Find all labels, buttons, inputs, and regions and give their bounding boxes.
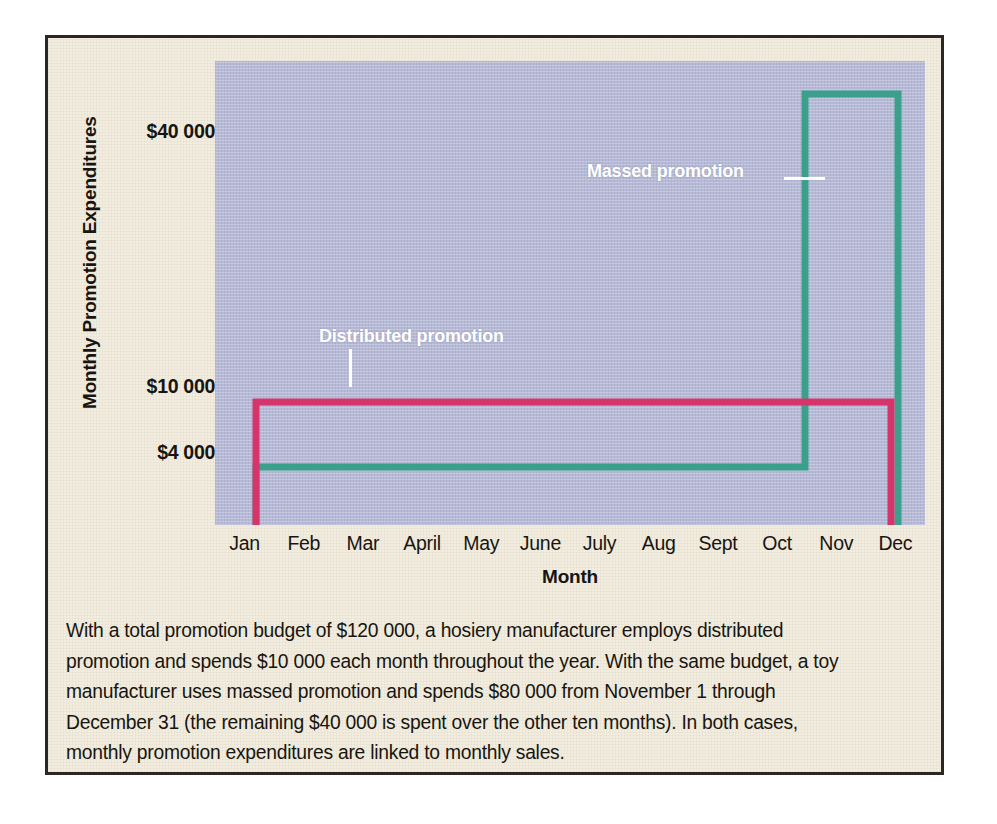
x-tick-label-jan: Jan (229, 532, 260, 555)
y-axis-title: Monthly Promotion Expenditures (79, 119, 101, 409)
x-tick-label-dec: Dec (879, 532, 913, 555)
caption-line: promotion and spends $10 000 each month … (66, 647, 909, 678)
chart-region: Monthly Promotion Expenditures $40 000 $… (48, 38, 941, 603)
x-tick-label-april: April (403, 532, 441, 555)
x-tick-label-sept: Sept (698, 532, 737, 555)
caption-line: manufacturer uses massed promotion and s… (66, 677, 909, 708)
x-tick-label-oct: Oct (762, 532, 791, 555)
x-tick-label-mar: Mar (347, 532, 380, 555)
x-tick-label-aug: Aug (642, 532, 676, 555)
x-tick-label-july: July (583, 532, 616, 555)
x-tick-label-may: May (463, 532, 499, 555)
plot-area: Massed promotion Distributed promotion (215, 61, 925, 525)
x-tick-label-nov: Nov (819, 532, 853, 555)
x-axis-tick-labels: JanFebMarAprilMayJuneJulyAugSeptOctNovDe… (215, 532, 925, 560)
distributed-promotion-leader-line (349, 349, 352, 387)
massed-promotion-leader-line (784, 177, 825, 180)
figure-frame: Monthly Promotion Expenditures $40 000 $… (45, 35, 944, 775)
distributed-promotion-label: Distributed promotion (319, 326, 504, 347)
caption-line: monthly promotion expenditures are linke… (66, 738, 909, 769)
massed-promotion-label: Massed promotion (587, 161, 744, 182)
y-tick-label-4000: $4 000 (65, 441, 215, 464)
x-tick-label-feb: Feb (287, 532, 320, 555)
x-axis-title: Month (215, 566, 925, 588)
series-line-massed (256, 94, 898, 525)
y-tick-label-40000: $40 000 (65, 120, 215, 143)
y-tick-label-10000: $10 000 (65, 375, 215, 398)
series-plot (215, 61, 925, 525)
x-tick-label-june: June (520, 532, 561, 555)
caption-line: With a total promotion budget of $120 00… (66, 616, 909, 647)
figure-caption: With a total promotion budget of $120 00… (66, 616, 909, 769)
caption-line: December 31 (the remaining $40 000 is sp… (66, 708, 909, 739)
